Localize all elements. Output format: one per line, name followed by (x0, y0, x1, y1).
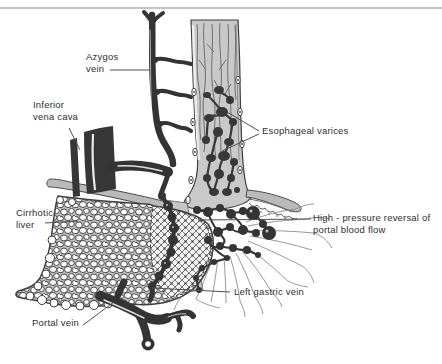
label-esophageal-varices: Esophageal varices (262, 125, 349, 137)
label-ivc-line1: Inferior (33, 99, 78, 111)
label-left-gastric-vein-text: Left gastric vein (234, 286, 304, 298)
label-azygos-vein: Azygos vein (86, 51, 118, 74)
label-high-pressure-reversal: High - pressure reversal of portal blood… (313, 212, 430, 235)
figure-canvas: Azygos vein Inferior vena cava Esophagea… (0, 0, 442, 364)
label-portal-vein: Portal vein (32, 317, 79, 329)
label-inferior-vena-cava: Inferior vena cava (33, 99, 78, 122)
label-cirrhotic-liver: Cirrhotic liver (16, 207, 53, 230)
anatomy-illustration (0, 0, 442, 364)
label-azygos-vein-line1: Azygos (86, 51, 118, 63)
label-ivc-line2: vena cava (33, 111, 78, 123)
label-cirrhotic-liver-line2: liver (16, 219, 53, 231)
label-cirrhotic-liver-line1: Cirrhotic (16, 207, 53, 219)
label-left-gastric-vein: Left gastric vein (234, 286, 304, 298)
label-portal-vein-text: Portal vein (32, 317, 79, 329)
label-high-pressure-line1: High - pressure reversal of (313, 212, 430, 224)
inferior-vena-cava (70, 126, 116, 197)
label-esophageal-varices-text: Esophageal varices (262, 125, 349, 137)
esophagus (184, 20, 251, 210)
azygos-vein (112, 12, 191, 194)
label-high-pressure-line2: portal blood flow (313, 224, 430, 236)
label-azygos-vein-line2: vein (86, 63, 118, 75)
